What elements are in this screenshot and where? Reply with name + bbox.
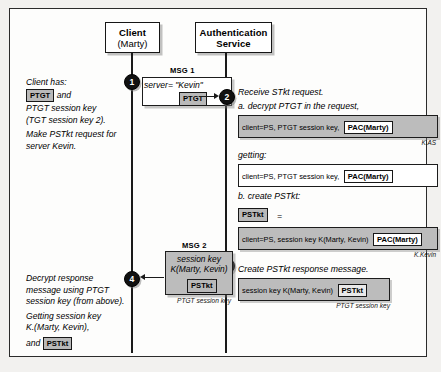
msg2-encryption-note: PTGT session key [164, 297, 244, 304]
note-decrypt-2: message using PTGT [26, 285, 130, 296]
msg1-label: MSG 1 [170, 66, 195, 75]
response-message-box: session key K(Marty, Kevin) PSTkt [238, 278, 390, 301]
pac-marty-chip-c: PAC(Marty) [373, 233, 422, 247]
actor-authentication-service: Authentication Service [195, 22, 272, 53]
diagram-canvas: Client (Marty) Authentication Service Cl… [0, 0, 441, 372]
msg1-field-value: "Kevin" [175, 80, 203, 90]
msg2-arrow-head [140, 274, 145, 280]
as-annotations: Receive STkt request. a. decrypt PTGT in… [238, 87, 438, 309]
note-decrypt-3: session key (from above). [26, 296, 130, 307]
step-bullet-2: 2 [219, 89, 235, 105]
actor-as-title: Authentication [196, 27, 271, 38]
step3-heading: Create PSTkt response message. [238, 264, 438, 275]
step2-getting-label: getting: [238, 150, 438, 161]
note-and-label: and [26, 338, 40, 348]
msg2-line1: session key [165, 254, 233, 264]
msg2-line2: K(Marty, Kevin) [165, 264, 233, 274]
note-ptgt-session-key: PTGT session key [26, 103, 126, 114]
msg1-field-key: server= [144, 80, 173, 90]
response-pstkt-chip: PSTkt [338, 284, 368, 298]
ptgt-chip: PTGT [26, 89, 54, 103]
pstkt-content-text: client=PS, session key K(Marty, Kevin) [242, 235, 369, 244]
actor-client-subtitle: (Marty) [106, 38, 159, 49]
note-client-token-row: PTGT and [26, 89, 126, 103]
note-client-has: Client has: [26, 77, 126, 88]
note-and-pstkt-row: and PSTkt [26, 337, 130, 351]
msg2-content: session key K(Marty, Kevin) [165, 254, 233, 274]
msg1-field: server= "Kevin" [144, 80, 230, 90]
pac-marty-chip-a: PAC(Marty) [344, 121, 393, 135]
msg2-pstkt-chip: PSTkt [187, 279, 217, 293]
msg1-ptgt-chip: PTGT [179, 92, 207, 106]
step2-sub-b: b. create PSTkt: [238, 191, 438, 202]
pac-marty-chip-b: PAC(Marty) [344, 170, 393, 184]
actor-client-title: Client [106, 27, 159, 38]
pstkt-content-box: client=PS, session key K(Marty, Kevin) P… [238, 227, 438, 250]
note-make-request-2: server Kevin. [26, 141, 126, 152]
note-getting-1: Getting session key [26, 311, 130, 322]
step2-heading: Receive STkt request. [238, 87, 438, 98]
response-keysub: PTGT session key [238, 302, 392, 309]
pstkt-definition-row: PSTkt = [238, 205, 438, 223]
decrypt-output-box: client=PS, PTGT session key, PAC(Marty) [238, 164, 438, 187]
note-decrypt-1: Decrypt response [26, 273, 130, 284]
decrypt-input-text: client=PS, PTGT session key, [242, 123, 339, 132]
lifeline-client [131, 53, 133, 353]
note-tgt-session-key-2: (TGT session key 2). [26, 115, 126, 126]
note-pstkt-chip: PSTkt [43, 337, 73, 351]
step-bullet-1: 1 [124, 74, 140, 90]
note-client-and: and [57, 90, 71, 100]
decrypt-input-box: client=PS, PTGT session key, PAC(Marty) [238, 115, 438, 138]
actor-client: Client (Marty) [105, 22, 160, 53]
step2-sub-a: a. decrypt PTGT in the request, [238, 101, 438, 112]
msg2-label: MSG 2 [182, 241, 207, 250]
note-client-step1: Client has: PTGT and PTGT session key (T… [26, 77, 126, 155]
note-client-step4: Decrypt response message using PTGT sess… [26, 273, 130, 354]
decrypt-input-keysub: K.AS [238, 139, 436, 146]
note-make-request-1: Make PSTkt request for [26, 129, 126, 140]
pstkt-equals: = [277, 211, 282, 221]
response-message-text: session key K(Marty, Kevin) [242, 286, 333, 295]
pstkt-chip: PSTkt [238, 208, 268, 222]
actor-as-subtitle: Service [196, 38, 271, 49]
msg2-arrow-line [144, 277, 164, 278]
diagram-frame: Client (Marty) Authentication Service Cl… [9, 8, 427, 357]
note-getting-2: K.(Marty, Kevin), [26, 322, 130, 333]
pstkt-content-keysub: K.Kevin [238, 251, 436, 258]
decrypt-output-text: client=PS, PTGT session key, [242, 172, 339, 181]
